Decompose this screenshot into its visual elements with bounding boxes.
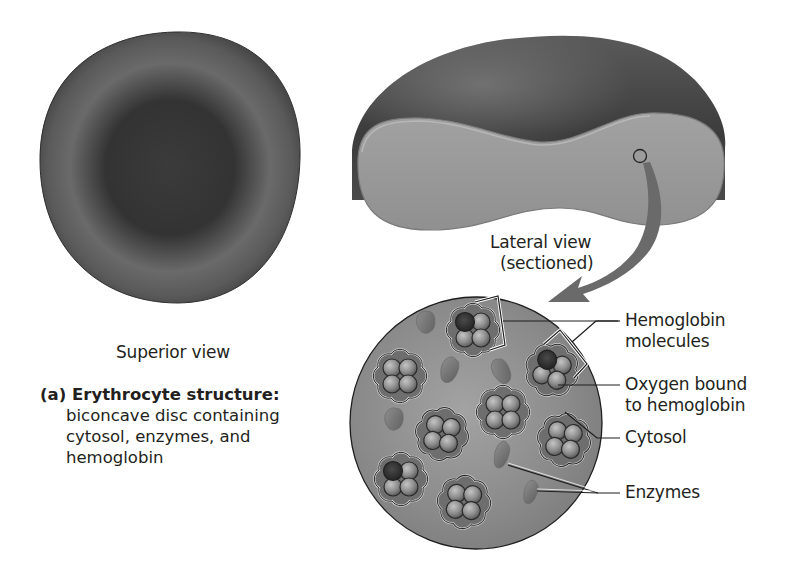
lateral-view-label-line1: Lateral view [490, 232, 591, 253]
caption-line-2: cytosol, enzymes, and [40, 426, 280, 447]
caption-line-1: biconcave disc containing [40, 405, 280, 426]
magnified-cytosol-view [350, 296, 602, 549]
callout-hemoglobin-line2: molecules [625, 331, 710, 352]
lateral-view-label-line2: (sectioned) [500, 253, 594, 274]
callout-oxygen-line2: to hemoglobin [625, 395, 745, 416]
superior-view-label: Superior view [116, 342, 230, 363]
superior-view-cell [40, 32, 300, 303]
caption-line-3: hemoglobin [40, 447, 280, 468]
callout-cytosol: Cytosol [625, 427, 687, 448]
callout-oxygen-line1: Oxygen bound [625, 374, 747, 395]
caption-title: Erythrocyte structure: [72, 385, 280, 404]
callout-hemoglobin-line1: Hemoglobin [625, 310, 725, 331]
caption-prefix: (a) [40, 385, 66, 404]
lateral-view-cell [352, 36, 725, 230]
callout-enzymes: Enzymes [625, 482, 700, 503]
figure-caption: (a) Erythrocyte structure: biconcave dis… [40, 384, 280, 468]
